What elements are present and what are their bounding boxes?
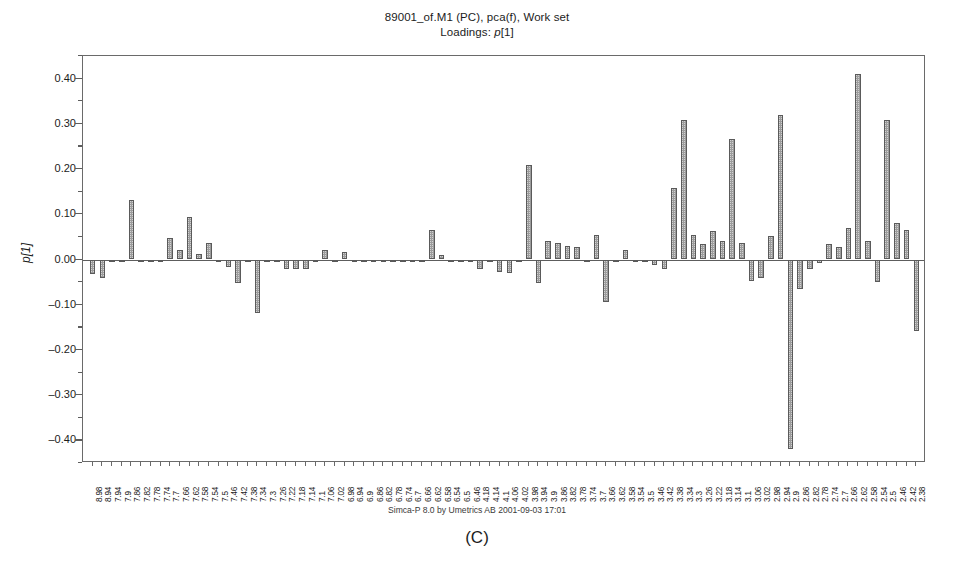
x-axis-tick <box>615 462 616 466</box>
x-axis-tick <box>528 462 529 466</box>
x-axis-tick <box>499 462 500 466</box>
x-axis-tick-label: 7.74 <box>163 487 172 502</box>
bar <box>788 260 794 450</box>
x-axis-tick <box>780 462 781 466</box>
bar <box>545 241 551 259</box>
x-axis-tick-label: 7.38 <box>250 487 259 502</box>
x-axis-tick-label: 3.22 <box>715 487 724 502</box>
y-axis-major-tick <box>75 259 82 260</box>
x-axis-tick <box>818 462 819 466</box>
bar <box>371 260 377 262</box>
x-axis-tick <box>915 462 916 466</box>
bar <box>516 260 522 262</box>
x-axis-tick <box>392 462 393 466</box>
x-axis-tick <box>489 462 490 466</box>
x-axis-tick-label: 3.34 <box>686 487 695 502</box>
x-axis-tick-label: 3.58 <box>628 487 637 502</box>
x-axis-tick <box>751 462 752 466</box>
x-axis-tick <box>189 462 190 466</box>
x-axis-tick-label: 7.06 <box>327 487 336 502</box>
x-axis-tick-label: 2.98 <box>773 487 782 502</box>
x-axis-tick <box>760 462 761 466</box>
x-axis-tick-label: 2.9 <box>792 491 801 502</box>
x-axis-tick-label: 3.86 <box>560 487 569 502</box>
x-axis-tick <box>828 462 829 466</box>
y-axis-tick-label: –0.30 <box>48 388 76 400</box>
bar <box>826 244 832 260</box>
x-axis-tick <box>121 462 122 466</box>
x-axis-tick <box>140 462 141 466</box>
x-axis-tick <box>789 462 790 466</box>
bar <box>497 260 503 273</box>
bar <box>119 260 125 262</box>
x-axis-tick-label: 4.06 <box>511 487 520 502</box>
bar <box>313 260 319 262</box>
y-axis-major-tick <box>75 123 82 124</box>
x-axis-tick-label: 3.46 <box>657 487 666 502</box>
y-axis-tick-label: 0.20 <box>55 162 76 174</box>
x-axis-tick <box>324 462 325 466</box>
x-axis-tick <box>809 462 810 466</box>
bar <box>429 230 435 260</box>
x-axis-tick <box>208 462 209 466</box>
bar <box>235 260 241 284</box>
y-axis-tick-label: 0.40 <box>55 72 76 84</box>
bar <box>264 260 270 262</box>
x-axis-tick-label: 2.94 <box>783 487 792 502</box>
bar <box>758 260 764 279</box>
x-axis-tick <box>537 462 538 466</box>
x-axis-tick-label: 2.38 <box>918 487 927 502</box>
x-axis-tick-label: 7.34 <box>259 487 268 502</box>
x-axis-tick-label: 4.18 <box>482 487 491 502</box>
x-axis-tick-label: 7.9 <box>124 491 133 502</box>
x-axis-tick-label: 6.74 <box>405 487 414 502</box>
x-axis-tick <box>654 462 655 466</box>
y-axis-major-tick <box>75 349 82 350</box>
x-axis-tick-label: 3.42 <box>666 487 675 502</box>
bar <box>293 260 299 269</box>
bar <box>681 120 687 259</box>
chart-title-line1: 89001_of.M1 (PC), pca(f), Work set <box>0 10 954 25</box>
bar <box>487 260 493 262</box>
x-axis-tick <box>634 462 635 466</box>
bar <box>536 260 542 284</box>
bar <box>90 260 96 274</box>
x-axis-tick-label: 3.26 <box>705 487 714 502</box>
x-axis-tick-label: 7.02 <box>337 487 346 502</box>
x-axis-tick <box>111 462 112 466</box>
x-axis-tick-label: 2.82 <box>812 487 821 502</box>
bar <box>846 228 852 260</box>
x-axis-tick <box>877 462 878 466</box>
x-axis-tick <box>605 462 606 466</box>
x-axis-tick-label: 3.1 <box>744 491 753 502</box>
x-axis-tick <box>896 462 897 466</box>
bar <box>749 260 755 282</box>
x-axis-tick-label: 7.42 <box>240 487 249 502</box>
y-axis-major-tick <box>75 78 82 79</box>
y-axis-major-tick <box>75 394 82 395</box>
bar <box>584 260 590 262</box>
x-axis-tick-label: 7.62 <box>192 487 201 502</box>
x-axis-tick <box>770 462 771 466</box>
bar <box>855 74 861 259</box>
x-axis-tick <box>353 462 354 466</box>
bar <box>226 260 232 267</box>
x-axis-tick-label: 2.54 <box>880 487 889 502</box>
x-axis-tick-label: 2.5 <box>889 491 898 502</box>
bar <box>526 165 532 260</box>
bar <box>477 260 483 269</box>
x-axis-tick-label: 7.66 <box>182 487 191 502</box>
bar <box>216 260 222 262</box>
x-axis-tick-label: 6.78 <box>395 487 404 502</box>
x-axis-tick-label: 3.9 <box>550 491 559 502</box>
bar <box>875 260 881 283</box>
x-axis-tick <box>847 462 848 466</box>
x-axis-tick <box>906 462 907 466</box>
x-axis-tick <box>363 462 364 466</box>
x-axis-tick <box>712 462 713 466</box>
bar <box>274 260 280 262</box>
x-axis-tick <box>508 462 509 466</box>
x-axis-tick <box>92 462 93 466</box>
x-axis-tick <box>722 462 723 466</box>
x-axis-tick-label: 2.78 <box>821 487 830 502</box>
